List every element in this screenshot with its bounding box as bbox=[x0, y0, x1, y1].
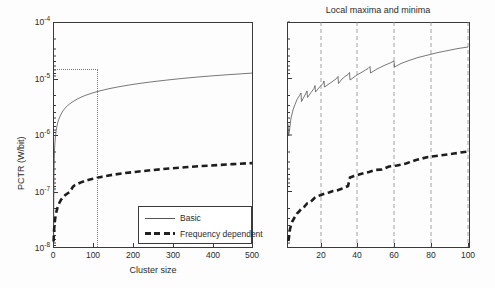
curve-freq-right bbox=[289, 152, 469, 242]
figure-container: PCTR (W/bit) 10-4 10-5 10-6 10-7 10-8 0 … bbox=[0, 0, 495, 288]
right-panel-plot-area bbox=[0, 0, 495, 288]
curve-basic-right bbox=[288, 47, 468, 136]
right-panel-gridlines bbox=[321, 22, 468, 247]
